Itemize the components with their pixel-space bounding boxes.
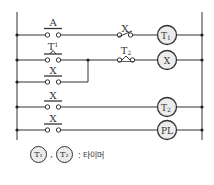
label-T2-contact: T2 [121,45,132,56]
junction-dot [15,58,18,61]
label-X-rung3: X [49,65,57,76]
junction-dot [15,128,18,131]
contact-T1-timer [44,51,62,63]
junction-dot [15,105,18,108]
junction-dot [200,58,203,61]
label-T1-contact: T1 [48,41,59,52]
legend-separator: , [50,149,53,159]
contact-X-rung5 [44,124,62,132]
coil-label-X: X [164,56,171,66]
junction-dot [200,128,203,131]
legend-coil-T1: T₁ [30,146,47,163]
legend-text: : 타이머 [78,149,104,160]
junction-dot [15,33,18,36]
legend: T₁ , T₂ : 타이머 [30,143,104,165]
label-X-nc: X [121,23,129,34]
junction-dot [200,33,203,36]
coil-label-PL: PL [161,126,173,136]
junction-dot [200,105,203,108]
label-A: A [48,17,57,28]
junction-dot [15,80,18,83]
legend-coil-T2: T₂ [56,146,73,163]
contact-X-rung3 [44,76,62,84]
label-X-rung5: X [49,113,57,124]
contact-A [44,29,62,38]
contact-T2-timer [117,56,134,62]
junction-dot [86,58,89,61]
label-X-rung4: X [49,90,57,101]
contact-X-rung4 [44,101,62,109]
